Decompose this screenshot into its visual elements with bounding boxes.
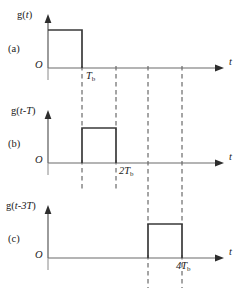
panel-b-tick-label: 2Tb (119, 166, 134, 178)
panel-c-origin: O (35, 250, 43, 261)
panel-c-y-label: g(t-3T) (6, 201, 36, 212)
panel-a-x-axis-label: t (229, 57, 232, 68)
panel-c-pulse (148, 224, 182, 258)
panel-b-tick-base: 2T (119, 165, 130, 176)
panel-b-pulse (82, 128, 116, 163)
panel-c-tick-base: 4T (176, 260, 187, 271)
panel-b-tick-sub: b (130, 170, 134, 178)
panel-a-origin: O (35, 60, 43, 71)
panel-a-y-axis (45, 14, 52, 68)
panel-a-y-label: g(t) (17, 10, 32, 21)
panel-c-x-axis (48, 255, 224, 262)
panel-a-x-axis (48, 65, 224, 72)
panel-c-y-label-arg: t-3T (15, 200, 33, 211)
panel-b-id: (b) (8, 139, 20, 150)
panel-b-y-label: g(t-T) (11, 106, 36, 117)
panel-c-y-axis (45, 205, 52, 258)
panel-a-tick-label: Tb (86, 71, 95, 83)
panel-c-id: (c) (8, 234, 20, 245)
panel-a (45, 14, 224, 80)
panel-c-tick-sub: b (187, 265, 191, 273)
panel-b-x-axis-label: t (229, 152, 232, 163)
panel-c-x-axis-label: t (229, 247, 232, 258)
panel-c-tick-label: 4Tb (176, 261, 191, 273)
panel-b-y-axis (45, 110, 52, 163)
panel-b (45, 110, 224, 175)
panel-c (45, 205, 224, 270)
panel-a-tick-sub: b (92, 75, 96, 83)
panel-a-pulse (48, 30, 82, 68)
panel-b-origin: O (35, 155, 43, 166)
panel-a-id: (a) (8, 44, 20, 55)
panel-b-x-axis (48, 160, 224, 167)
panel-b-y-label-arg: t-T (20, 105, 32, 116)
